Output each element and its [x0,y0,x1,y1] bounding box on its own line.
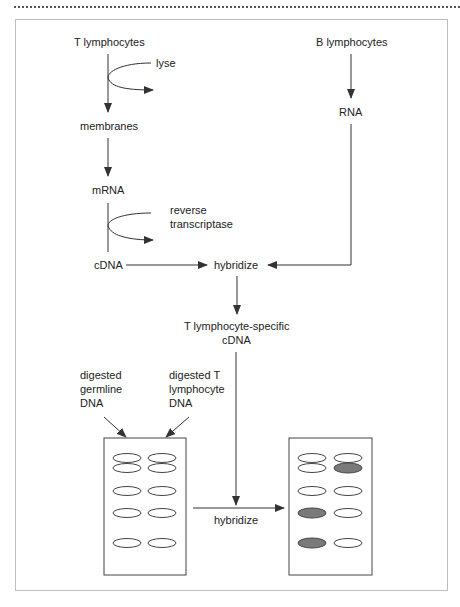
reverse-transcriptase-curve-arrow [108,213,153,240]
left-band-l2-r1 [148,454,176,463]
tdna-label-line2: lymphocyte [169,383,225,395]
left-band-l2-r4 [148,509,176,518]
right-band-l1-r2 [298,464,326,473]
tdna-label-line3: DNA [169,397,193,409]
right-band-l2-r3 [334,487,362,496]
b-lymphocytes-label: B lymphocytes [316,36,388,48]
left-band-l1-r1 [113,454,141,463]
right-band-l2-r4 [334,509,362,518]
germline-label-line1: digested [80,369,122,381]
lyse-curve-arrow [108,63,153,90]
germline-label-line3: DNA [80,397,104,409]
left-band-l1-r4 [113,509,141,518]
right-band-l1-r1 [298,454,326,463]
arrow-germline-to-blot [104,417,126,437]
germline-label-line2: germline [80,383,122,395]
left-band-l2-r5 [148,539,176,548]
left-band-l2-r3 [148,487,176,496]
rna-label: RNA [339,106,363,118]
mrna-label: mRNA [92,184,125,196]
right-band-l1-r4-hybridized [298,508,326,518]
right-band-l1-r5-hybridized [298,538,326,548]
left-band-l1-r5 [113,539,141,548]
left-band-l1-r3 [113,487,141,496]
tdna-label-line1: digested T [169,369,220,381]
cdna-label: cDNA [94,259,123,271]
transcriptase-label: transcriptase [170,218,233,230]
left-band-l1-r2 [113,464,141,473]
lyse-label: lyse [156,57,176,69]
membranes-label: membranes [80,120,139,132]
right-band-l2-r2-hybridized [334,463,362,473]
t-specific-label-line2: cDNA [222,334,251,346]
right-blot [289,438,372,575]
flow-diagram: T lymphocytes B lymphocytes lyse membran… [0,0,460,607]
hybridize-bottom-label: hybridize [214,514,258,526]
right-band-l2-r5 [334,539,362,548]
t-lymphocytes-label: T lymphocytes [74,36,145,48]
left-blot [104,438,186,575]
reverse-label: reverse [170,204,207,216]
t-specific-label-line1: T lymphocyte-specific [184,320,290,332]
right-band-l2-r1 [334,454,362,463]
arrow-rna-to-hybridize [268,124,351,265]
hybridize-top-label: hybridize [214,259,258,271]
right-band-l1-r3 [298,487,326,496]
arrow-tdna-to-blot [166,417,189,437]
left-band-l2-r2 [148,464,176,473]
